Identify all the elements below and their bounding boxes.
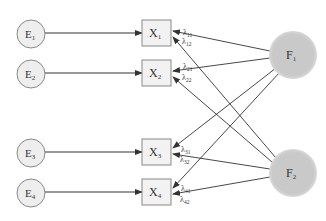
label-lambda-12: λ12: [182, 37, 192, 47]
error-node-e1: E1: [17, 20, 45, 48]
error-node-e3: E3: [17, 139, 45, 167]
arrow-lambda-12: [173, 37, 276, 158]
factor-nodes: F1 F2: [269, 31, 317, 197]
factor-node-f2: F2: [269, 149, 317, 197]
indicator-nodes: X1 X2 X3 X4: [142, 20, 171, 205]
label-lambda-31: λ31: [181, 145, 191, 155]
error-node-e2: E2: [17, 60, 45, 88]
indicator-node-x2: X2: [142, 60, 171, 86]
arrow-lambda-41: [173, 72, 280, 188]
loading-arrows: [173, 31, 280, 194]
label-lambda-22: λ22: [182, 73, 192, 83]
error-arrows: [45, 33, 142, 192]
indicator-node-x3: X3: [142, 139, 171, 165]
indicator-node-x4: X4: [142, 179, 171, 205]
label-lambda-42: λ42: [180, 195, 190, 205]
factor-node-f1: F1: [269, 31, 317, 79]
path-diagram: E1 E2 E3 E4 X1 X2 X3 X4: [0, 0, 326, 221]
error-nodes: E1 E2 E3 E4: [17, 20, 45, 207]
label-lambda-21: λ21: [183, 62, 193, 72]
error-node-e4: E4: [17, 179, 45, 207]
label-lambda-41: λ41: [181, 184, 191, 194]
indicator-node-x1: X1: [142, 20, 171, 46]
